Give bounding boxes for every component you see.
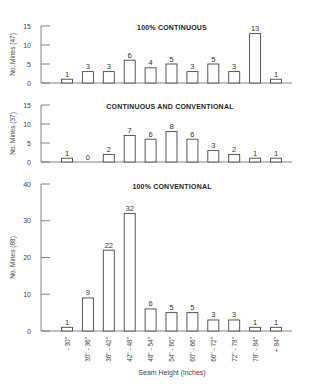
bar-value-label: 3 [107, 62, 111, 71]
bar-value-label: 7 [128, 126, 132, 135]
x-category-label: 54" - 60" [168, 336, 175, 362]
y-tick-label: 20 [23, 254, 31, 261]
bar [250, 34, 261, 83]
bar [145, 68, 156, 83]
bar [229, 320, 240, 331]
bar-value-label: 1 [274, 149, 278, 158]
bar [103, 250, 114, 331]
x-category-label: 48" - 54" [147, 336, 154, 362]
bar [145, 139, 156, 162]
y-tick-label: 15 [23, 102, 31, 109]
bar [166, 132, 177, 162]
bar-value-label: 1 [253, 318, 257, 327]
bar-value-label: 5 [211, 55, 215, 64]
y-tick-label: 40 [23, 181, 31, 188]
x-category-label: 72" - 78" [231, 336, 238, 362]
chart-title: 100% CONVENTIONAL [132, 183, 212, 190]
bar-value-label: 1 [65, 70, 69, 79]
x-category-label: 42" - 48" [126, 336, 133, 362]
bar-value-label: 22 [105, 241, 113, 250]
bar [103, 72, 114, 83]
x-category-label: 78" - 84" [252, 336, 259, 362]
bar-value-label: 6 [149, 130, 153, 139]
bar-value-label: 6 [149, 299, 153, 308]
x-category-label: + 84" [273, 336, 280, 352]
bar [208, 64, 219, 83]
bar [187, 72, 198, 83]
bar-value-label: 2 [232, 145, 236, 154]
bar [271, 79, 282, 83]
y-tick-label: 5 [27, 140, 31, 147]
bar-value-label: 3 [86, 62, 90, 71]
x-category-label: 60" - 66" [189, 336, 196, 362]
x-axis-label: Seam Height (inches) [138, 369, 205, 377]
bar-value-label: 4 [149, 58, 153, 67]
bar [62, 79, 73, 83]
y-axis-label: No. Mines (88) [9, 236, 17, 279]
y-axis-label: No. Mines (37) [9, 112, 17, 155]
bar [271, 327, 282, 331]
bar [124, 60, 135, 83]
y-tick-label: 15 [23, 23, 31, 30]
bar-value-label: 3 [232, 62, 236, 71]
x-category-label: 66" - 72" [210, 336, 217, 362]
seam-height-chart: 051015No. Mines (47)100% CONTINUOUS13364… [0, 0, 314, 392]
bar-value-label: 3 [211, 141, 215, 150]
bar-value-label: 6 [190, 130, 194, 139]
bar-value-label: 3 [211, 310, 215, 319]
bar [82, 298, 93, 331]
bar [103, 154, 114, 162]
bar [208, 320, 219, 331]
bar-value-label: 1 [65, 149, 69, 158]
y-axis-label: No. Mines (47) [9, 33, 17, 76]
x-category-label: 30" - 36" [84, 336, 91, 362]
x-category-label: - 30" [64, 336, 71, 350]
bar [208, 151, 219, 162]
bar-value-label: 0 [86, 153, 90, 162]
y-tick-label: 10 [23, 291, 31, 298]
bar-value-label: 1 [274, 70, 278, 79]
bar [124, 213, 135, 331]
bar-value-label: 1 [274, 318, 278, 327]
bar-value-label: 5 [169, 55, 173, 64]
bar [229, 154, 240, 162]
bar-value-label: 2 [107, 145, 111, 154]
y-tick-label: 10 [23, 121, 31, 128]
bar [82, 72, 93, 83]
y-tick-label: 0 [27, 328, 31, 335]
y-tick-label: 10 [23, 42, 31, 49]
y-tick-label: 5 [27, 61, 31, 68]
y-tick-label: 0 [27, 159, 31, 166]
bar-value-label: 8 [169, 122, 173, 131]
y-tick-label: 0 [27, 80, 31, 87]
bar-value-label: 6 [128, 51, 132, 60]
bar [250, 158, 261, 162]
bar-value-label: 5 [169, 303, 173, 312]
bar-value-label: 1 [253, 149, 257, 158]
bar-value-label: 3 [190, 62, 194, 71]
bar-value-label: 32 [126, 204, 134, 213]
bar [250, 327, 261, 331]
bar [62, 327, 73, 331]
chart-title: 100% CONTINUOUS [137, 24, 207, 31]
chart-title: CONTINUOUS AND CONVENTIONAL [106, 103, 234, 110]
x-category-label: 36" - 42" [105, 336, 112, 362]
chart-panel-2: 051015No. Mines (37)CONTINUOUS AND CONVE… [9, 102, 292, 166]
bar-value-label: 3 [232, 310, 236, 319]
bar [271, 158, 282, 162]
bar [145, 309, 156, 331]
bar [187, 313, 198, 331]
chart-panel-3: 010203040No. Mines (88)100% CONVENTIONAL… [9, 181, 292, 378]
bar [166, 64, 177, 83]
bar-value-label: 9 [86, 288, 90, 297]
bar-value-label: 13 [251, 24, 259, 33]
bar [62, 158, 73, 162]
bar [187, 139, 198, 162]
bar-value-label: 5 [190, 303, 194, 312]
bar [166, 313, 177, 331]
bar [124, 135, 135, 162]
bar-value-label: 1 [65, 318, 69, 327]
y-tick-label: 30 [23, 217, 31, 224]
chart-panel-1: 051015No. Mines (47)100% CONTINUOUS13364… [9, 23, 292, 87]
bar [229, 72, 240, 83]
